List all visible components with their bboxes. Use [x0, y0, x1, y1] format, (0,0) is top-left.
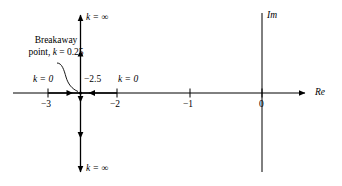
tick-label-minus-2: −2 [110, 99, 120, 109]
breakaway-point-marker [79, 91, 82, 94]
imaginary-axis-label: Im [267, 10, 277, 21]
locus-direction-arrow-lower-1 [78, 96, 84, 103]
root-locus-canvas [0, 0, 342, 186]
gain-label-k-infinity-bottom: k = ∞ [86, 163, 108, 174]
tick-label-minus-3: −3 [41, 99, 51, 109]
tick-label-zero: 0 [259, 99, 264, 109]
breakaway-callout: Breakaway point, k = 0.25 [14, 35, 98, 58]
real-axis-label: Re [315, 87, 325, 98]
locus-direction-arrow-lower-2 [78, 132, 84, 139]
gain-label-k-infinity-top: k = ∞ [86, 12, 108, 23]
breakaway-callout-value: = 0.25 [57, 47, 84, 57]
locus-direction-arrow-left [67, 90, 74, 96]
breakaway-callout-line-1: Breakaway [14, 35, 98, 47]
root-locus-figure: Re Im −3 −2 −1 0 −2.5 k = 0 k = 0 k = ∞ … [0, 0, 342, 186]
breakaway-callout-line-2: point, k = 0.25 [14, 47, 98, 59]
gain-label-k-zero-left: k = 0 [33, 74, 53, 85]
breakaway-leader-line [57, 63, 78, 92]
tick-label-minus-1: −1 [183, 99, 193, 109]
breakaway-callout-prefix: point, [28, 47, 52, 57]
locus-direction-arrow-right [89, 90, 96, 96]
breakaway-sigma-label: −2.5 [84, 74, 101, 84]
gain-label-k-zero-right: k = 0 [118, 74, 138, 85]
